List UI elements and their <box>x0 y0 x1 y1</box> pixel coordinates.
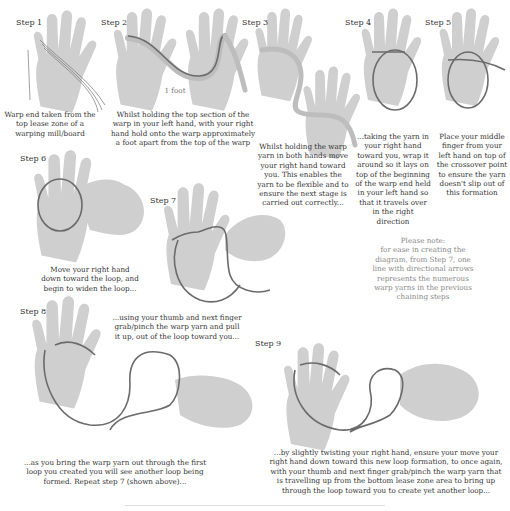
step-8-caption: ...as you bring the warp yarn out throug… <box>20 458 210 486</box>
step-2-caption: Whilst holding the top section of the wa… <box>108 110 258 148</box>
step-1-caption: Warp end taken from the top lease zone o… <box>2 110 98 138</box>
step-6-label: Step 6 <box>20 154 46 163</box>
one-foot-label: 1 foot <box>160 86 190 95</box>
step-8-label: Step 8 <box>20 307 46 316</box>
step-6-illustration <box>34 150 144 262</box>
step-6-caption: Move your right hand down toward the loo… <box>40 265 140 293</box>
step-9-caption: ...by slightly twisting your right hand,… <box>268 448 504 495</box>
step-4-label: Step 4 <box>345 18 371 27</box>
step-5-label: Step 5 <box>425 18 451 27</box>
step-3-illustration <box>255 9 360 160</box>
note-block: Please note: for ease in creating the di… <box>370 236 476 302</box>
step-2-label: Step 2 <box>101 18 127 27</box>
step-2-illustration <box>114 8 248 110</box>
step-1-label: Step 1 <box>16 18 42 27</box>
step-7-label: Step 7 <box>150 196 176 205</box>
footer-divider <box>125 505 385 506</box>
step-9-illustration <box>284 343 479 450</box>
step-4-caption: ...taking the yarn in your right hand to… <box>355 132 431 226</box>
step-3-label: Step 3 <box>242 18 268 27</box>
step-9-label: Step 9 <box>255 339 281 348</box>
step-7-caption: ...using your thumb and next finger grab… <box>112 313 242 341</box>
step-5-caption: Place your middle finger from your left … <box>436 132 508 198</box>
note-body: for ease in creating the diagram, from S… <box>370 245 476 301</box>
step-3-caption: Whilst holding the warp yarn in both han… <box>255 142 351 208</box>
note-title: Please note: <box>370 236 476 245</box>
